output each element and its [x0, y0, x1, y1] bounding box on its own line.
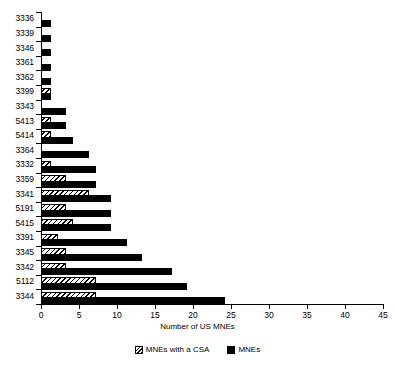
bar-mne [41, 254, 142, 261]
x-axis-label: 40 [335, 311, 355, 320]
x-axis-tick [193, 304, 194, 309]
y-axis-label: 5415 [0, 219, 34, 228]
y-axis-label: 3343 [0, 102, 34, 111]
bar-mne [41, 64, 51, 71]
bar-mne [41, 137, 73, 144]
legend-item-mnes: MNEs [227, 345, 260, 354]
y-axis-label: 3345 [0, 248, 34, 257]
x-axis-tick [345, 304, 346, 309]
legend-label-mnes: MNEs [238, 345, 260, 354]
bar-mne [41, 239, 127, 246]
x-axis-label: 15 [145, 311, 165, 320]
x-axis-tick [79, 304, 80, 309]
y-axis-label: 3339 [0, 29, 34, 38]
x-axis-label: 20 [183, 311, 203, 320]
horizontal-bar-chart: 3336333933463361336233993343541354143364… [0, 0, 395, 366]
x-axis-label: 45 [373, 311, 393, 320]
y-axis-label: 3346 [0, 44, 34, 53]
legend-item-csa: MNEs with a CSA [135, 345, 210, 354]
x-axis-label: 30 [259, 311, 279, 320]
y-axis-label: 3342 [0, 263, 34, 272]
x-axis-title: Number of US MNEs [0, 322, 395, 331]
bar-mne [41, 297, 225, 304]
y-axis-tick [36, 12, 41, 13]
legend-label-csa: MNEs with a CSA [146, 345, 210, 354]
y-axis-tick [36, 100, 41, 101]
y-axis-label: 3359 [0, 175, 34, 184]
bar-mne [41, 35, 51, 42]
bar-mne [41, 93, 51, 100]
y-axis-label: 3361 [0, 58, 34, 67]
x-axis-tick [269, 304, 270, 309]
chart-legend: MNEs with a CSA MNEs [0, 345, 395, 354]
x-axis-tick [231, 304, 232, 309]
bar-mne [41, 181, 96, 188]
bar-mne [41, 268, 172, 275]
bar-mne [41, 108, 66, 115]
y-axis-label: 3399 [0, 87, 34, 96]
y-axis-label: 3336 [0, 14, 34, 23]
bar-mne [41, 78, 51, 85]
y-axis-tick [36, 173, 41, 174]
y-axis-label: 3344 [0, 292, 34, 301]
bar-mne [41, 151, 89, 158]
solid-black-swatch-icon [227, 346, 235, 354]
bar-mne [41, 224, 111, 231]
x-axis-tick [307, 304, 308, 309]
bar-mne [41, 195, 111, 202]
y-axis-tick [36, 246, 41, 247]
y-axis-label: 5414 [0, 131, 34, 140]
x-axis-tick [155, 304, 156, 309]
y-axis-tick [36, 27, 41, 28]
y-axis-label: 3362 [0, 73, 34, 82]
y-axis-label: 3332 [0, 160, 34, 169]
bar-mne [41, 210, 111, 217]
y-axis-label: 5112 [0, 277, 34, 286]
x-axis-label: 5 [69, 311, 89, 320]
bar-mne [41, 49, 51, 56]
y-axis-label: 3341 [0, 190, 34, 199]
y-axis-label: 3391 [0, 233, 34, 242]
x-axis-tick [117, 304, 118, 309]
x-axis-tick [41, 304, 42, 309]
x-axis-label: 0 [31, 311, 51, 320]
bar-mne [41, 20, 51, 27]
x-axis-label: 10 [107, 311, 127, 320]
y-axis-label: 5191 [0, 204, 34, 213]
y-axis-label: 5413 [0, 117, 34, 126]
bar-mne [41, 283, 187, 290]
y-axis-label: 3364 [0, 146, 34, 155]
bar-mne [41, 122, 66, 129]
x-axis-label: 25 [221, 311, 241, 320]
bar-mne [41, 166, 96, 173]
x-axis-label: 35 [297, 311, 317, 320]
x-axis-tick [383, 304, 384, 309]
hatched-swatch-icon [135, 346, 143, 354]
